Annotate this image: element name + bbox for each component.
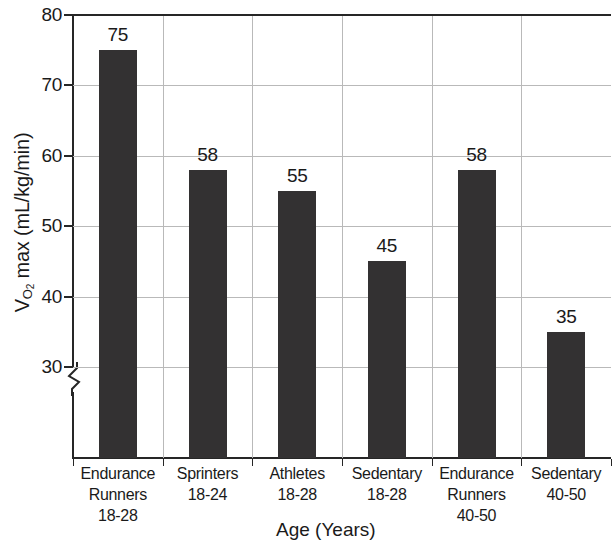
x-axis-category-line: Sprinters (163, 463, 253, 484)
y-axis-tick (64, 225, 73, 227)
y-axis-tick (64, 155, 73, 157)
x-axis-category-label: EnduranceRunners40-50 (432, 463, 522, 526)
bar-value-label: 45 (357, 236, 417, 255)
bar-value-label: 58 (447, 145, 507, 164)
x-axis-category-line: 18-24 (163, 484, 253, 505)
x-axis-category-line: Endurance (432, 463, 522, 484)
bars-layer (73, 16, 611, 458)
x-axis-category-line: Endurance (73, 463, 163, 484)
y-axis-title: VO2 max (mL/kg/min) (11, 78, 36, 368)
x-axis-category-line: 18-28 (342, 484, 432, 505)
x-axis-category-label: Sedentary18-28 (342, 463, 432, 505)
y-axis-tick (64, 366, 73, 368)
y-axis-tick (64, 14, 73, 16)
x-axis-category-line: Runners (73, 484, 163, 505)
x-axis-category-line: 40-50 (432, 505, 522, 526)
bar (99, 50, 137, 458)
x-axis-tick (611, 459, 612, 466)
x-axis-category-line: 18-28 (252, 484, 342, 505)
y-axis-tick (64, 296, 73, 298)
x-axis-category-label: EnduranceRunners18-28 (73, 463, 163, 526)
bar-value-label: 58 (178, 145, 238, 164)
bar-value-label: 75 (88, 25, 148, 44)
bar-value-label: 35 (536, 307, 596, 326)
bar (458, 170, 496, 458)
x-axis-category-label: Athletes18-28 (252, 463, 342, 505)
x-axis-category-line: Sedentary (342, 463, 432, 484)
x-axis-category-line: Sedentary (521, 463, 611, 484)
y-axis-tick (64, 84, 73, 86)
bar (278, 191, 316, 458)
x-axis-title: Age (Years) (276, 519, 376, 541)
y-axis-tick-label: 80 (26, 5, 62, 24)
x-axis-category-label: Sprinters18-24 (163, 463, 253, 505)
y-axis-tick-label-wrap: 80 (20, 5, 62, 24)
x-axis-category-label: Sedentary40-50 (521, 463, 611, 505)
x-axis-category-line: Runners (432, 484, 522, 505)
y-axis-title-text: VO2 max (mL/kg/min) (11, 133, 33, 313)
bar-chart: 807060504030 755855455835 EnduranceRunne… (0, 0, 613, 541)
x-axis-category-line: 40-50 (521, 484, 611, 505)
bar (547, 332, 585, 458)
x-axis-category-line: Athletes (252, 463, 342, 484)
bar (368, 261, 406, 458)
bar (189, 170, 227, 458)
bar-value-label: 55 (267, 166, 327, 185)
x-axis-category-line: 18-28 (73, 505, 163, 526)
